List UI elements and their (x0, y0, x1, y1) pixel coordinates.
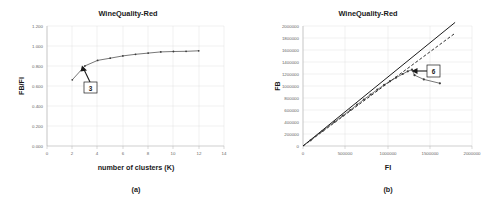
y-tick-label: 200000 (284, 132, 299, 137)
series-marker (135, 53, 137, 55)
series-marker (321, 130, 323, 132)
series-marker (349, 109, 351, 111)
y-tick-label: 1800000 (282, 36, 300, 41)
y-tick-label: 0.200 (32, 124, 44, 129)
series-marker (333, 121, 335, 123)
x-tick-label: 12 (197, 151, 202, 156)
y-tick-label: 600000 (284, 108, 299, 113)
x-tick-label: 2 (71, 151, 74, 156)
series-marker (160, 51, 162, 53)
x-tick-label: 10 (171, 151, 176, 156)
series-reference-solid (303, 22, 455, 146)
annotation-label: 3 (89, 85, 93, 92)
x-tick-label: 1000000 (379, 151, 397, 156)
x-tick-label: 2000000 (463, 151, 481, 156)
chart-a-svg: WineQuality-Red (0, 0, 240, 201)
figure-container: WineQuality-Red (0, 0, 481, 201)
chart-panel-a: WineQuality-Red (0, 0, 240, 201)
series-marker (376, 89, 378, 91)
series-marker (122, 55, 124, 57)
series-marker (173, 51, 175, 53)
chart-b-y-axis-title: FB (273, 81, 282, 91)
chart-a-title: WineQuality-Red (98, 9, 158, 18)
x-tick-label: 500000 (338, 151, 353, 156)
series-marker (310, 139, 312, 141)
x-tick-label: 8 (147, 151, 150, 156)
y-tick-label: 800000 (284, 96, 299, 101)
series-marker (370, 93, 372, 95)
annotation-arrow-head (81, 66, 88, 72)
y-tick-label: 2000000 (282, 24, 300, 29)
series-marker (413, 74, 415, 76)
y-tick-label: 0.600 (32, 84, 44, 89)
chart-b-title: WineQuality-Red (338, 9, 398, 18)
y-tick-label: 1200000 (282, 72, 300, 77)
chart-b-caption: (b) (383, 185, 393, 194)
series-marker (97, 60, 99, 62)
x-tick-label: 4 (96, 151, 99, 156)
chart-a-caption: (a) (132, 185, 141, 194)
series-marker (109, 57, 111, 59)
series-marker (383, 84, 385, 86)
series-marker (198, 50, 200, 52)
series-marker (363, 98, 365, 100)
x-tick-label: 14 (222, 151, 227, 156)
y-tick-label: 1.200 (32, 24, 44, 29)
chart-b-grid (303, 26, 472, 146)
x-tick-label: 0 (302, 151, 305, 156)
y-tick-label: 0.000 (32, 144, 44, 149)
chart-b-svg: WineQuality-Red (240, 0, 481, 201)
chart-b-y-tick-labels: 2000000 1800000 1600000 1400000 1200000 … (282, 24, 300, 149)
chart-a-series-fb-fi (71, 50, 199, 81)
y-tick-label: 0 (297, 144, 300, 149)
x-tick-label: 0 (46, 151, 49, 156)
y-tick-label: 1.000 (32, 44, 44, 49)
series-marker (402, 73, 404, 75)
series-marker (389, 80, 391, 82)
chart-panel-b: WineQuality-Red (240, 0, 481, 201)
chart-b-series-group (303, 22, 455, 146)
chart-a-y-axis-title: FB/FI (17, 77, 26, 95)
y-tick-label: 1600000 (282, 48, 300, 53)
chart-a-grid (47, 26, 224, 146)
series-marker (84, 65, 86, 67)
x-tick-label: 6 (122, 151, 125, 156)
series-marker (185, 50, 187, 52)
chart-a-annotation-3: 3 (81, 66, 98, 94)
series-marker (395, 77, 397, 79)
y-tick-label: 1000000 (282, 84, 300, 89)
chart-b-annotation-6: 6 (412, 65, 441, 77)
series-marker (356, 104, 358, 106)
annotation-label: 6 (432, 68, 436, 75)
chart-a-x-axis-title: number of clusters (K) (98, 163, 175, 172)
y-tick-label: 0.800 (32, 64, 44, 69)
series-marker (147, 52, 149, 54)
y-tick-label: 0.400 (32, 104, 44, 109)
series-FB-vs-FI (311, 70, 440, 141)
series-marker (71, 79, 73, 81)
chart-a-y-tick-labels: 1.200 1.000 0.800 0.600 0.400 0.200 0.00… (32, 24, 44, 149)
y-tick-label: 1400000 (282, 60, 300, 65)
chart-b-x-axis-title: FI (385, 163, 391, 172)
series-marker (342, 115, 344, 117)
series-marker (439, 82, 441, 84)
series-marker (423, 78, 425, 80)
y-tick-label: 400000 (284, 120, 299, 125)
series-marker (407, 70, 409, 72)
chart-b-x-tick-labels: 0 500000 1000000 1500000 2000000 (302, 146, 481, 156)
x-tick-label: 1500000 (421, 151, 439, 156)
chart-a-x-tick-labels: 0 2 4 6 8 10 12 14 (46, 146, 227, 156)
